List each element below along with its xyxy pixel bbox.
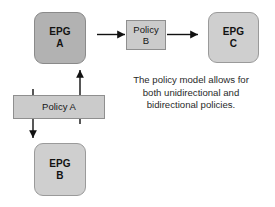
node-policy-a[interactable]: Policy A xyxy=(13,95,105,119)
node-epg-a-line2: A xyxy=(56,38,63,50)
node-policy-b-line1: Policy xyxy=(133,24,158,35)
node-epg-a[interactable]: EPG A xyxy=(34,12,86,64)
node-policy-a-label: Policy A xyxy=(42,101,76,112)
node-epg-a-line1: EPG xyxy=(49,26,70,38)
node-epg-b-line1: EPG xyxy=(49,158,70,170)
caption-line-3: bidirectional policies. xyxy=(113,99,269,112)
policy-model-diagram: EPG A Policy B EPG C Policy A EPG B The … xyxy=(0,0,275,207)
caption-line-1: The policy model allows for xyxy=(113,74,269,87)
caption-line-2: both unidirectional and xyxy=(113,87,269,100)
node-epg-c[interactable]: EPG C xyxy=(208,12,259,63)
node-epg-c-line1: EPG xyxy=(223,26,244,38)
diagram-caption: The policy model allows for both unidire… xyxy=(113,74,269,112)
node-epg-b[interactable]: EPG B xyxy=(34,143,86,196)
node-epg-c-line2: C xyxy=(230,38,237,50)
node-policy-b[interactable]: Policy B xyxy=(126,20,166,50)
node-epg-b-line2: B xyxy=(56,170,63,182)
node-policy-b-line2: B xyxy=(143,35,149,46)
